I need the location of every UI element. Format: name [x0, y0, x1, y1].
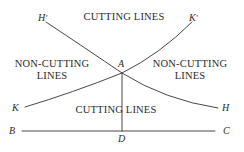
point-label-c: C	[223, 126, 230, 136]
point-label-k-prime-mark: '	[196, 13, 198, 23]
point-label-a: A	[118, 59, 124, 69]
point-label-b: B	[9, 126, 15, 136]
point-label-h: H	[222, 103, 229, 113]
point-label-h-prime: H'	[38, 13, 47, 23]
point-label-h-prime-mark: '	[45, 13, 47, 23]
point-label-k: K	[12, 103, 19, 113]
region-label-cutting-bottom: CUTTING LINES	[62, 104, 170, 116]
cutting-lines-diagram: CUTTING LINES NON-CUTTING LINES NON-CUTT…	[0, 0, 244, 152]
region-label-non-cutting-left: NON-CUTTING LINES	[10, 58, 94, 82]
region-label-cutting-top: CUTTING LINES	[72, 11, 176, 23]
region-label-non-cutting-right: NON-CUTTING LINES	[146, 58, 234, 82]
point-label-d: D	[118, 134, 125, 144]
point-label-k-prime-letter: K	[189, 12, 196, 23]
point-label-k-prime: K'	[189, 13, 198, 23]
